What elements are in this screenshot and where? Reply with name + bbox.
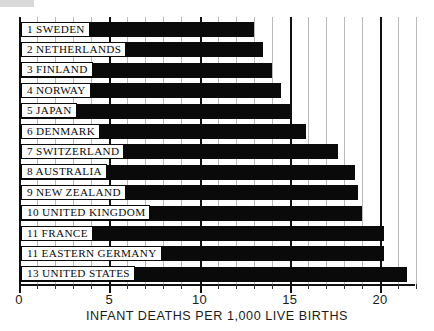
tick-minor [163, 284, 164, 289]
tick-minor [37, 284, 38, 289]
tick-minor [344, 284, 345, 289]
bar-row: 10 UNITED KINGDOM [0, 203, 434, 223]
bar-row: 3 FINLAND [0, 60, 434, 80]
bar-label: 11 EASTERN GERMANY [21, 246, 162, 261]
bar-row: 4 NORWAY [0, 80, 434, 100]
tick-minor [272, 284, 273, 289]
bar-label: 9 NEW ZEALAND [21, 185, 126, 200]
tick-minor [398, 284, 399, 289]
x-axis-caption: INFANT DEATHS PER 1,000 LIVE BIRTHS [0, 309, 434, 323]
bar-row: 9 NEW ZEALAND [0, 182, 434, 202]
bar-row: 8 AUSTRALIA [0, 162, 434, 182]
tick-minor [91, 284, 92, 289]
tick-label: 0 [15, 292, 22, 307]
bar-row: 13 UNITED STATES [0, 264, 434, 284]
tick-minor [181, 284, 182, 289]
tick-minor [73, 284, 74, 289]
bar-label: 3 FINLAND [21, 62, 93, 77]
bar-label: 7 SWITZERLAND [21, 144, 124, 159]
bar-row: 11 FRANCE [0, 223, 434, 243]
tick-label: 10 [192, 292, 207, 307]
tick-minor [55, 284, 56, 289]
bar-row: 6 DENMARK [0, 121, 434, 141]
tick-minor [416, 284, 417, 289]
chart-figure: 1 SWEDEN2 NETHERLANDS3 FINLAND4 NORWAY5 … [0, 0, 434, 331]
tick-minor [236, 284, 237, 289]
bar-label: 13 UNITED STATES [21, 266, 135, 281]
tick-label: 15 [282, 292, 297, 307]
bar-label: 10 UNITED KINGDOM [21, 205, 150, 220]
bar-label: 5 JAPAN [21, 103, 77, 118]
tick-minor [127, 284, 128, 289]
tick-minor [254, 284, 255, 289]
tick-label: 5 [106, 292, 113, 307]
bar-label: 11 FRANCE [21, 226, 93, 241]
bar-row: 7 SWITZERLAND [0, 141, 434, 161]
tick-minor [362, 284, 363, 289]
bar-rows: 1 SWEDEN2 NETHERLANDS3 FINLAND4 NORWAY5 … [0, 0, 434, 331]
tick-minor [308, 284, 309, 289]
bar-label: 1 SWEDEN [21, 22, 90, 37]
bar-row: 5 JAPAN [0, 101, 434, 121]
bar-label: 4 NORWAY [21, 83, 91, 98]
bar-label: 6 DENMARK [21, 124, 100, 139]
bar-row: 2 NETHERLANDS [0, 39, 434, 59]
tick-label: 20 [373, 292, 388, 307]
bar-label: 8 AUSTRALIA [21, 164, 107, 179]
bar-label: 2 NETHERLANDS [21, 42, 126, 57]
bar-row: 1 SWEDEN [0, 19, 434, 39]
tick-minor [218, 284, 219, 289]
tick-minor [145, 284, 146, 289]
bar-row: 11 EASTERN GERMANY [0, 243, 434, 263]
tick-minor [326, 284, 327, 289]
